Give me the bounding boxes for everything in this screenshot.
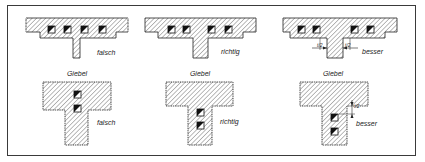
label-falsch-top: falsch [97,49,115,56]
label-falsch-bottom: falsch [97,119,115,126]
flue-icon [48,26,55,33]
heading-giebel-2: Giebel [190,70,210,77]
flue-icon [367,26,374,33]
flue-icon [313,26,320,33]
flue-icon [197,122,204,129]
dimension-vertical: t/2 [354,103,360,109]
label-richtig-bottom: richtig [220,118,239,125]
dimension-right: t/2 [345,42,351,48]
flue-icon [225,26,232,33]
flue-icon [298,26,305,33]
flue-icon [197,109,204,116]
flue-icon [74,91,81,98]
heading-giebel-1: Giebel [67,70,87,77]
flue-icon [168,26,175,33]
flue-icon [183,26,190,33]
bottom-panel-besser [300,82,368,145]
heading-giebel-3: Giebel [323,70,343,77]
label-besser-bottom: besser [356,120,377,127]
dimension-left: t/2 [317,42,323,48]
flue-icon [331,128,338,135]
label-richtig-top: richtig [221,48,240,55]
flue-icon [99,26,106,33]
flue-icon [64,26,71,33]
flue-icon [331,114,338,121]
bottom-panel-falsch [43,82,111,145]
flue-icon [81,26,88,33]
flue-icon [351,26,358,33]
flue-icon [74,105,81,112]
flue-icon [208,26,215,33]
construction-diagram [0,0,425,162]
label-besser-top: besser [362,48,383,55]
bottom-panel-richtig [166,82,233,145]
